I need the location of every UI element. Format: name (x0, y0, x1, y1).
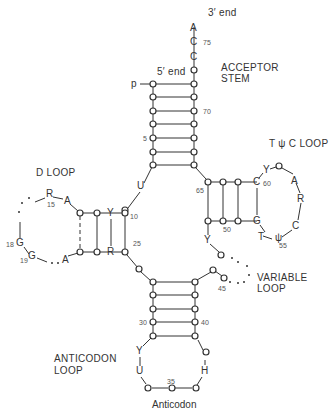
base-c74: C (190, 52, 197, 62)
number-70: 70 (203, 108, 211, 115)
anticodon-loop-label-line2: LOOP (54, 366, 83, 376)
number-55: 55 (279, 242, 287, 249)
base-d-loop-a: A (64, 196, 71, 206)
acceptor-stem-label-line2: STEM (221, 74, 250, 84)
base-t-bottom-g: G (253, 216, 261, 226)
base-d-loop-g18: G (16, 238, 24, 248)
three-prime-end-label: 3′ end (208, 8, 237, 18)
base-ac-loop-h: H (201, 366, 208, 376)
number-30: 30 (139, 319, 147, 326)
base-ac-loop-y: Y (136, 346, 143, 356)
base-ac-loop-u: U (136, 366, 143, 376)
base-d-bottom-r: R (107, 247, 114, 257)
base-t-top-c: C (253, 177, 260, 187)
base-d-top-y: Y (107, 208, 114, 218)
number-25: 25 (133, 240, 141, 247)
base-t-loop-c: C (292, 221, 299, 231)
base-d-loop-r: R (46, 189, 53, 199)
number-35: 35 (167, 378, 175, 385)
number-40: 40 (201, 319, 209, 326)
phosphate-label: p (131, 79, 137, 89)
number-5: 5 (143, 135, 147, 142)
base-y48: Y (204, 235, 211, 245)
base-t-loop-y: Y (263, 165, 270, 175)
base-u8: U (137, 181, 144, 191)
base-c75: C (190, 37, 197, 47)
d-loop-label: D LOOP (36, 168, 76, 178)
number-10: 10 (130, 213, 138, 220)
base-t-loop-a: A (291, 176, 298, 186)
number-50: 50 (223, 226, 231, 233)
base-a76: A (190, 23, 197, 33)
trna-cloverleaf-diagram: 3′ end 5′ end ACCEPTOR STEM D LOOP T ψ C… (0, 0, 335, 414)
five-prime-end-label: 5′ end (157, 67, 186, 77)
base-d-loop-g19: G (28, 251, 36, 261)
number-75: 75 (203, 39, 211, 46)
variable-loop-label-line1: VARIABLE (257, 273, 308, 283)
number-19: 19 (20, 257, 28, 264)
number-60: 60 (263, 180, 271, 187)
base-t-loop-r: R (297, 194, 304, 204)
number-15: 15 (47, 201, 55, 208)
base-d-loop-a-bottom: A (62, 255, 69, 265)
anticodon-loop-label-line1: ANTICODON (54, 354, 117, 364)
tpsic-loop-label: T ψ C LOOP (269, 139, 328, 149)
base-t-loop-t: T (258, 232, 264, 242)
number-65: 65 (196, 187, 204, 194)
variable-loop-label-line2: LOOP (257, 284, 286, 294)
number-45: 45 (218, 285, 226, 292)
anticodon-label: Anticodon (152, 400, 196, 410)
number-18: 18 (6, 241, 14, 248)
acceptor-stem-label-line1: ACCEPTOR (221, 63, 279, 73)
